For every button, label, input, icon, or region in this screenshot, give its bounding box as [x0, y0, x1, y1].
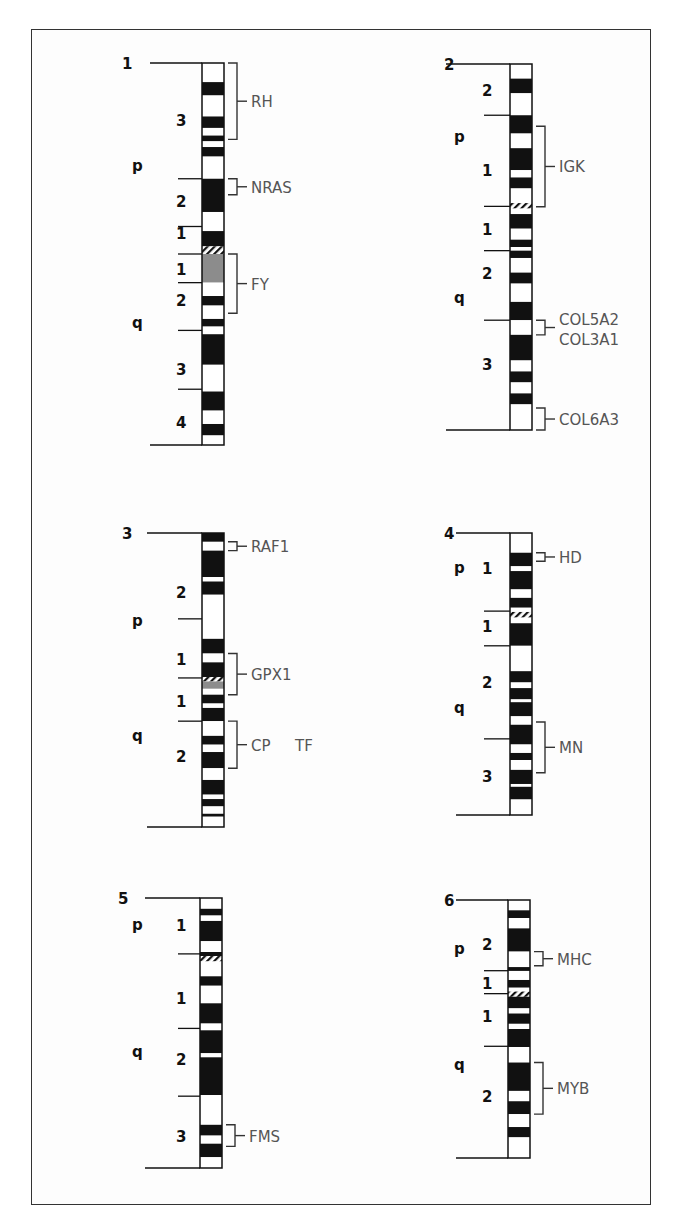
band-light	[202, 768, 224, 780]
band-dark	[510, 571, 532, 589]
band-light	[510, 188, 532, 203]
band-light	[508, 971, 530, 980]
region-label: 3	[176, 361, 186, 379]
gene-label: NRAS	[251, 179, 292, 197]
band-dark	[508, 1101, 530, 1114]
band-dark	[508, 1063, 530, 1091]
band-light	[510, 134, 532, 149]
region-label: 1	[482, 221, 492, 239]
gene-bracket	[536, 553, 545, 561]
band-dark	[200, 952, 222, 956]
band-light	[510, 589, 532, 597]
band-light	[510, 64, 532, 79]
band-light	[202, 577, 224, 581]
band-light	[508, 1024, 530, 1029]
band-light	[508, 1047, 530, 1062]
chromosome-number: 5	[118, 890, 128, 908]
band-dark	[202, 780, 224, 795]
gene-bracket	[534, 1063, 543, 1115]
band-dark	[510, 553, 532, 567]
band-light	[510, 745, 532, 753]
band-light	[510, 404, 532, 430]
centromere-band	[510, 203, 532, 208]
chromosome-number: 4	[444, 525, 454, 543]
band-dark	[200, 976, 222, 985]
arm-label: p	[454, 940, 465, 958]
band-dark	[510, 177, 532, 188]
band-light	[510, 716, 532, 724]
band-dark	[510, 371, 532, 382]
band-dark	[202, 736, 224, 745]
band-dark	[510, 251, 532, 258]
band-light	[508, 900, 530, 910]
band-light	[202, 306, 224, 319]
band-light	[202, 212, 224, 231]
band-light	[202, 157, 224, 179]
band-light	[200, 941, 222, 952]
band-light	[202, 817, 224, 827]
gene-bracket	[228, 63, 237, 139]
band-dark	[202, 116, 224, 127]
band-dark	[200, 1003, 222, 1023]
band-light	[200, 916, 222, 921]
band-light	[202, 745, 224, 752]
gene-label: GPX1	[251, 666, 292, 684]
arm-label: p	[454, 559, 465, 577]
band-dark	[202, 533, 224, 542]
arm-label: p	[132, 157, 143, 175]
chromosome-5: 5pq1123FMS	[118, 890, 280, 1168]
band-light	[202, 595, 224, 639]
gene-bracket	[536, 408, 545, 430]
centromere-band	[510, 612, 532, 618]
region-label: 2	[482, 674, 492, 692]
band-light	[202, 95, 224, 116]
band-light	[510, 209, 532, 214]
region-label: 1	[176, 990, 186, 1008]
band-dark	[200, 1057, 222, 1095]
band-light	[202, 63, 224, 82]
band-dark	[202, 752, 224, 768]
band-light	[508, 952, 530, 967]
chromosome-4: 4pq1123HDMN	[444, 525, 583, 815]
band-dark	[510, 302, 532, 320]
arm-label: q	[132, 727, 143, 745]
band-dark	[508, 910, 530, 918]
gene-label: FY	[251, 276, 270, 294]
band-dark	[200, 1030, 222, 1053]
gene-label: COL3A1	[559, 331, 619, 349]
gene-label: COL5A2	[559, 311, 619, 329]
band-dark	[200, 921, 222, 941]
band-dark	[510, 115, 532, 133]
band-dark	[510, 79, 532, 94]
centromere-band	[200, 956, 222, 961]
band-dark	[202, 82, 224, 95]
region-label: 1	[482, 975, 492, 993]
gene-bracket	[536, 722, 545, 773]
gene-label: HD	[559, 549, 582, 567]
band-light	[202, 704, 224, 708]
band-light	[508, 988, 530, 992]
gene-bracket	[536, 320, 545, 335]
band-light	[510, 699, 532, 702]
band-dark	[510, 335, 532, 361]
band-dark	[510, 240, 532, 247]
gene-label: MHC	[557, 951, 592, 969]
band-dark	[200, 1144, 222, 1158]
band-light	[202, 283, 224, 296]
region-label: 1	[176, 261, 186, 279]
band-light	[510, 258, 532, 273]
band-dark	[202, 639, 224, 654]
band-light	[510, 760, 532, 770]
band-dark	[202, 582, 224, 595]
gene-bracket	[226, 1125, 235, 1147]
band-dark	[510, 702, 532, 716]
band-dark	[202, 814, 224, 817]
band-light	[200, 961, 222, 976]
region-label: 3	[482, 768, 492, 786]
gene-bracket	[536, 126, 545, 207]
band-light	[510, 646, 532, 671]
band-light	[508, 1008, 530, 1013]
band-light	[200, 1024, 222, 1031]
band-dark	[508, 967, 530, 971]
band-dark	[202, 136, 224, 142]
